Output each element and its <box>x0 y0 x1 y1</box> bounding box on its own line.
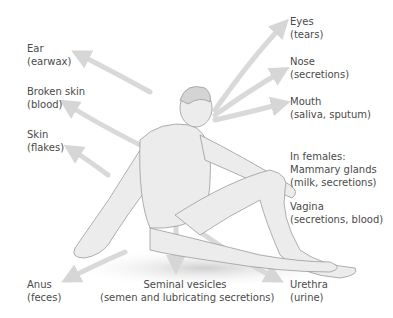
label-mouth: Mouth (saliva, sputum) <box>290 95 371 121</box>
label-vagina: Vagina (secretions, blood) <box>290 200 383 226</box>
arrow-ear <box>80 55 150 92</box>
label-eyes: Eyes (tears) <box>290 15 323 41</box>
label-broken-skin: Broken skin (blood) <box>27 85 85 111</box>
label-ear: Ear (earwax) <box>27 42 71 68</box>
label-nose: Nose (secretions) <box>290 55 349 81</box>
label-skin: Skin (flakes) <box>27 128 64 154</box>
label-seminal-vesicles: Seminal vesicles (semen and lubricating … <box>100 278 270 304</box>
label-anus: Anus (feces) <box>27 278 61 304</box>
arrow-eyes <box>215 26 282 110</box>
label-urethra: Urethra (urine) <box>290 278 328 304</box>
arrow-skin <box>72 150 108 175</box>
label-mammary-glands: In females: Mammary glands (milk, secret… <box>290 150 377 189</box>
arrow-broken-skin <box>68 105 150 150</box>
